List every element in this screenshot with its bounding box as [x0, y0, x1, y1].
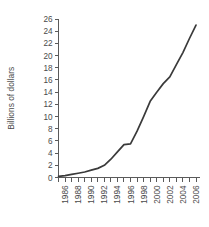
data-series-line — [59, 25, 197, 176]
x-axis-tick-marks — [59, 178, 197, 183]
x-tick-label: 1992 — [100, 185, 109, 204]
x-tick-label: 2006 — [192, 185, 201, 204]
x-tick-label: 1990 — [87, 185, 96, 204]
x-tick-label: 1996 — [127, 185, 136, 204]
x-tick-label: 2000 — [153, 185, 162, 204]
x-tick-label: 1988 — [74, 185, 83, 204]
y-axis-tick-labels: 02468101214161820222426 — [43, 15, 53, 183]
y-axis-title-text: Billions of dollars — [6, 67, 16, 130]
y-tick-label: 24 — [43, 27, 53, 36]
x-tick-label: 2004 — [179, 185, 188, 204]
line-chart-figure: Billions of dollars 02468101214161820222… — [0, 0, 209, 227]
y-tick-label: 2 — [48, 161, 53, 170]
y-tick-label: 20 — [43, 52, 53, 61]
y-tick-label: 4 — [48, 149, 53, 158]
chart-canvas: Billions of dollars 02468101214161820222… — [0, 0, 209, 227]
x-tick-label: 2002 — [166, 185, 175, 204]
y-axis-title: Billions of dollars — [6, 67, 16, 130]
x-tick-label: 1986 — [61, 185, 70, 204]
y-tick-label: 16 — [43, 76, 53, 85]
y-tick-label: 0 — [48, 174, 53, 183]
y-tick-label: 22 — [43, 39, 53, 48]
y-tick-label: 6 — [48, 137, 53, 146]
y-tick-label: 12 — [43, 100, 53, 109]
y-tick-label: 18 — [43, 64, 53, 73]
y-tick-label: 10 — [43, 113, 53, 122]
x-tick-label: 1994 — [113, 185, 122, 204]
x-axis-tick-labels: 1986198819901992199419961998200020022004… — [61, 185, 201, 204]
y-axis-tick-marks — [55, 19, 59, 178]
y-tick-label: 26 — [43, 15, 53, 24]
y-tick-label: 8 — [48, 125, 53, 134]
x-tick-label: 1998 — [140, 185, 149, 204]
y-tick-label: 14 — [43, 88, 53, 97]
